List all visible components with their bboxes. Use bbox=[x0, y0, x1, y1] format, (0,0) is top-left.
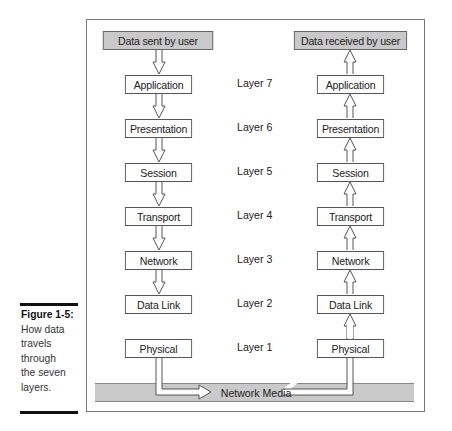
caption-title: Figure 1-5: bbox=[21, 307, 76, 322]
sender-layer-5-box: Session bbox=[125, 163, 192, 182]
sender-layer-7-box: Application bbox=[125, 75, 192, 94]
layer-name: Application bbox=[326, 79, 376, 91]
receiver-layer-6-box: Presentation bbox=[317, 119, 384, 138]
up-arrow-icon bbox=[344, 50, 356, 74]
layer-5-label: Layer 5 bbox=[237, 165, 311, 177]
layer-name: Transport bbox=[329, 211, 372, 223]
layer-name: Presentation bbox=[130, 123, 187, 135]
layer-name: Data Link bbox=[329, 299, 372, 311]
caption-line: How data bbox=[21, 322, 76, 337]
receiver-layer-1-box: Physical bbox=[317, 339, 384, 358]
data-sent-label: Data sent by user bbox=[118, 35, 198, 47]
sender-layer-2-box: Data Link bbox=[125, 295, 192, 314]
receiver-layer-2-box: Data Link bbox=[317, 295, 384, 314]
layer-name: Physical bbox=[332, 343, 370, 355]
layer-1-label: Layer 1 bbox=[237, 341, 311, 353]
layer-name: Physical bbox=[140, 343, 178, 355]
layer-name: Data Link bbox=[137, 299, 180, 311]
layer-name: Transport bbox=[137, 211, 180, 223]
caption-line: the seven bbox=[21, 365, 76, 380]
down-arrow-icon bbox=[153, 94, 165, 118]
receiver-layer-7-box: Application bbox=[317, 75, 384, 94]
up-arrow-icon bbox=[344, 138, 356, 162]
down-arrow-icon bbox=[153, 50, 165, 74]
sender-layer-4-box: Transport bbox=[125, 207, 192, 226]
layer-name: Network bbox=[140, 255, 178, 267]
caption-line: through bbox=[21, 351, 76, 366]
layer-name: Session bbox=[140, 167, 176, 179]
receiver-layer-4-box: Transport bbox=[317, 207, 384, 226]
receiver-layer-3-box: Network bbox=[317, 251, 384, 270]
sender-layer-1-box: Physical bbox=[125, 339, 192, 358]
up-arrow-icon bbox=[344, 270, 356, 294]
layer-7-label: Layer 7 bbox=[237, 77, 311, 89]
sender-layer-6-box: Presentation bbox=[125, 119, 192, 138]
data-sent-box: Data sent by user bbox=[103, 31, 213, 50]
layer-4-label: Layer 4 bbox=[237, 209, 311, 221]
down-arrow-icon bbox=[153, 182, 165, 206]
down-arrow-icon bbox=[153, 138, 165, 162]
down-arrow-icon bbox=[153, 226, 165, 250]
elbow-arrow-right-icon bbox=[156, 358, 211, 399]
layer-name: Presentation bbox=[322, 123, 379, 135]
caption-line: layers. bbox=[21, 380, 76, 395]
up-arrow-icon bbox=[344, 226, 356, 250]
layer-name: Session bbox=[332, 167, 368, 179]
layer-name: Network bbox=[332, 255, 370, 267]
data-received-label: Data received by user bbox=[301, 35, 400, 47]
caption-line: travels bbox=[21, 336, 76, 351]
down-arrow-icon bbox=[153, 270, 165, 294]
layer-6-label: Layer 6 bbox=[237, 121, 311, 133]
caption-top-rule bbox=[20, 303, 78, 306]
figure-caption: Figure 1-5: How data travels through the… bbox=[21, 307, 76, 394]
layer-3-label: Layer 3 bbox=[237, 253, 311, 265]
sender-layer-3-box: Network bbox=[125, 251, 192, 270]
up-arrow-icon bbox=[344, 182, 356, 206]
up-arrow-icon bbox=[344, 94, 356, 118]
layer-name: Application bbox=[134, 79, 184, 91]
receiver-layer-5-box: Session bbox=[317, 163, 384, 182]
caption-bottom-rule bbox=[20, 411, 78, 414]
layer-2-label: Layer 2 bbox=[237, 297, 311, 309]
network-media-label: Network Media bbox=[218, 384, 294, 402]
data-received-box: Data received by user bbox=[294, 31, 407, 50]
